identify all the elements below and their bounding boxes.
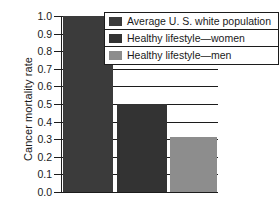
y-axis-tick-label: 0.2	[26, 152, 52, 163]
y-axis-tick-label: 0.0	[26, 187, 52, 198]
y-axis-tick-label: 0.7	[26, 64, 52, 75]
legend-swatch-icon	[109, 51, 122, 60]
bar	[170, 137, 217, 192]
y-axis-tick-label: 0.6	[26, 81, 52, 92]
legend-item: Average U. S. white population	[105, 13, 278, 30]
y-axis-tick	[54, 16, 62, 17]
legend-item-label: Healthy lifestyle—men	[127, 50, 231, 61]
legend-item: Healthy lifestyle—women	[105, 30, 278, 47]
y-axis-tick-label: 0.9	[26, 29, 52, 40]
y-axis-tick	[54, 86, 62, 87]
y-axis-tick-label: 0.3	[26, 134, 52, 145]
y-axis-tick-labels: 1.00.90.80.70.60.50.40.30.20.10.0	[22, 0, 52, 211]
y-axis-tick	[54, 192, 62, 193]
y-axis-tick-label: 1.0	[26, 11, 52, 22]
y-axis-tick	[54, 34, 62, 35]
y-axis-tick-label: 0.5	[26, 99, 52, 110]
y-axis-tick-label: 0.4	[26, 117, 52, 128]
y-axis-tick-label: 0.1	[26, 169, 52, 180]
legend-swatch-icon	[109, 17, 122, 26]
y-axis-tick	[54, 157, 62, 158]
y-axis-tick	[54, 122, 62, 123]
y-axis-tick	[54, 51, 62, 52]
y-axis-tick	[54, 104, 62, 105]
bar	[117, 104, 167, 192]
y-axis-tick	[54, 139, 62, 140]
y-axis-tick	[54, 69, 62, 70]
legend-item-label: Healthy lifestyle—women	[127, 33, 245, 44]
y-axis-tick-label: 0.8	[26, 46, 52, 57]
legend-item: Healthy lifestyle—men	[105, 47, 278, 64]
legend-swatch-icon	[109, 34, 122, 43]
bar-chart-figure: Cancer mortality rate 1.00.90.80.70.60.5…	[0, 0, 279, 211]
y-axis-tick	[54, 174, 62, 175]
legend: Average U. S. white populationHealthy li…	[104, 12, 279, 65]
legend-item-label: Average U. S. white population	[127, 16, 271, 27]
gridline	[62, 192, 218, 193]
